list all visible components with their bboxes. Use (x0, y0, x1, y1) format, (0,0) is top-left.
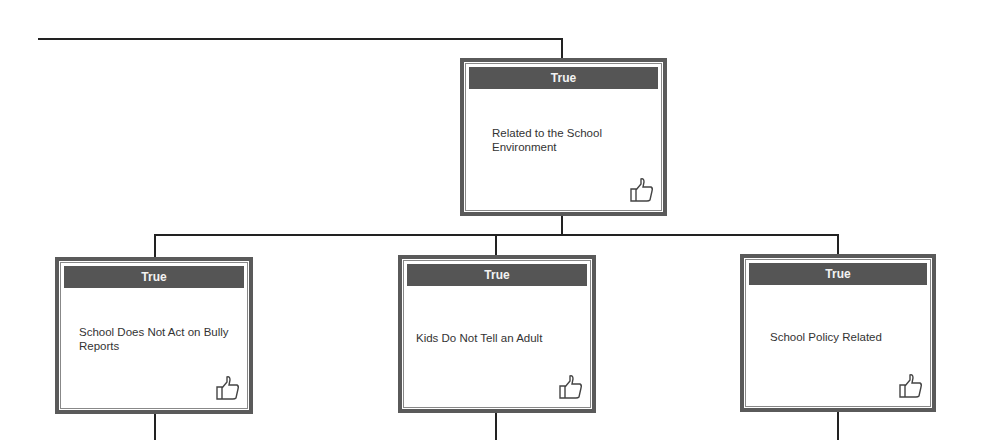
connector-incoming-vertical (561, 38, 563, 59)
node-status-header: True (469, 67, 658, 89)
thumbs-up-icon[interactable] (899, 373, 923, 399)
node-status-header: True (407, 264, 587, 286)
connector-child-2-out (495, 412, 497, 440)
connector-child-2-down (495, 234, 497, 256)
connector-child-3-out (837, 411, 839, 440)
connector-incoming-horizontal (38, 38, 563, 40)
node-status-header: True (749, 263, 927, 285)
connector-child-3-down (837, 234, 839, 255)
connector-child-1-out (154, 412, 156, 440)
node-child-3[interactable]: True School Policy Related (740, 254, 936, 412)
node-label: Related to the School Environment (492, 126, 642, 154)
thumbs-up-icon[interactable] (559, 374, 583, 400)
node-root[interactable]: True Related to the School Environment (460, 58, 667, 216)
thumbs-up-icon[interactable] (216, 375, 240, 401)
node-label: Kids Do Not Tell an Adult (416, 331, 586, 345)
node-label: School Does Not Act on Bully Reports (79, 325, 244, 353)
node-label: School Policy Related (770, 330, 920, 344)
node-child-1[interactable]: True School Does Not Act on Bully Report… (55, 257, 253, 414)
node-child-2[interactable]: True Kids Do Not Tell an Adult (398, 255, 596, 413)
node-status-header: True (64, 266, 244, 288)
thumbs-up-icon[interactable] (630, 177, 654, 203)
connector-root-down (561, 214, 563, 236)
connector-child-1-down (154, 234, 156, 258)
